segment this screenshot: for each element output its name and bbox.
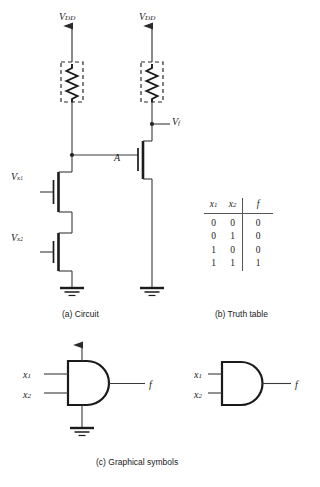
label-vdd-right: VDD (139, 11, 155, 22)
table-row: 1 0 0 (204, 244, 273, 258)
cell-f: 0 (243, 230, 274, 244)
caption-graphical-symbols: (c) Graphical symbols (96, 457, 178, 467)
truth-table-header-f: f (243, 198, 274, 213)
label-gate-right-input-x2: x2 (194, 389, 202, 400)
cell-x2: 0 (223, 217, 243, 231)
and-gate-right-body (222, 362, 263, 405)
truth-table-header-row: x1 x2 f (204, 198, 273, 213)
cell-f: 0 (243, 244, 274, 258)
table-row: 1 1 1 (204, 257, 273, 271)
and-gate-right (208, 362, 291, 405)
caption-circuit: (a) Circuit (62, 309, 99, 319)
resistor-zigzag-left (67, 64, 78, 102)
truth-table: x1 x2 f 0 0 0 0 1 0 (204, 198, 273, 271)
label-gate-left-input-x1: x1 (23, 369, 31, 380)
truth-table-header-x1: x1 (204, 198, 223, 213)
transistor-node-a-driven (138, 141, 152, 179)
label-output-vf: Vf (172, 116, 180, 127)
caption-truth-table: (b) Truth table (215, 309, 268, 319)
cell-x1: 0 (204, 230, 223, 244)
ground-right (140, 179, 164, 296)
truth-table-grid: x1 x2 f 0 0 0 0 1 0 (204, 198, 273, 271)
truth-table-header-x2: x2 (223, 198, 243, 213)
resistor-zigzag-right (147, 64, 158, 102)
ground-left (60, 271, 84, 296)
label-gate-right-output-f: f (295, 379, 298, 390)
circuit-subfigure (40, 26, 170, 296)
table-row: 0 1 0 (204, 230, 273, 244)
cell-f: 1 (243, 257, 274, 271)
label-gate-left-input-x2: x2 (23, 389, 31, 400)
and-gate-left-body (68, 361, 109, 405)
and-gate-left (44, 345, 145, 436)
transistor-vx1 (40, 172, 72, 212)
label-gate-input-vx1: Vx1 (11, 171, 23, 182)
table-row: 0 0 0 (204, 217, 273, 231)
label-gate-right-input-x1: x1 (194, 369, 202, 380)
cell-x1: 1 (204, 257, 223, 271)
figure-nmos-and-gate: VDD VDD Vf Vx1 Vx2 A x1 x2 f x1 x2 f x1 … (0, 0, 320, 487)
cell-x2: 0 (223, 244, 243, 258)
label-node-a: A (114, 152, 120, 163)
cell-x2: 1 (223, 230, 243, 244)
transistor-vx2 (40, 233, 72, 271)
cell-x1: 0 (204, 217, 223, 231)
cell-x2: 1 (223, 257, 243, 271)
cell-x1: 1 (204, 244, 223, 258)
label-gate-left-output-f: f (149, 379, 152, 390)
graphical-symbols-subfigure (44, 345, 291, 436)
label-gate-input-vx2: Vx2 (11, 232, 23, 243)
cell-f: 0 (243, 217, 274, 231)
label-vdd-left: VDD (59, 11, 75, 22)
